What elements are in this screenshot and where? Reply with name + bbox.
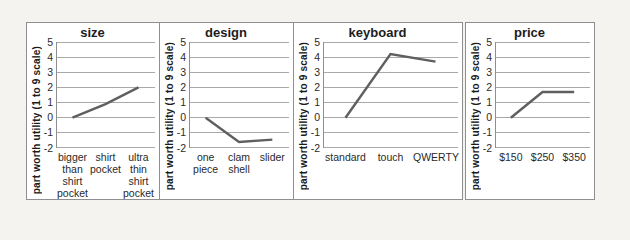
y-tick-label: 0 [180,112,186,123]
x-category-label: touch [368,151,413,163]
x-category-label: shirt pocket [89,151,122,199]
y-tick-labels: 543210-1-2 [309,42,323,148]
y-tick-label: 1 [486,97,492,108]
y-axis-label-box: part worth utility (1 to 9 scale) [469,42,481,190]
x-category-label: $250 [527,151,559,163]
y-tick-label: 2 [180,82,186,93]
chart-title: keyboard [297,25,458,41]
y-tick-label: -2 [44,143,53,154]
plot-area [323,42,458,148]
x-category-labels: one piececlam shellslider [189,151,289,175]
x-category-label: bigger than shirt pocket [56,151,89,199]
chart-panel-keyboard: keyboard part worth utility (1 to 9 scal… [293,22,463,200]
y-tick-label: 3 [180,67,186,78]
y-tick-label: 1 [47,97,53,108]
y-axis-label: part worth utility (1 to 9 scale) [470,42,481,190]
x-category-labels: standardtouchQWERTY [323,151,458,163]
x-category-label: slider [256,151,289,175]
y-tick-label: 5 [180,37,186,48]
plot-area [495,42,590,148]
x-category-labels: bigger than shirt pocketshirt pocketultr… [56,151,155,199]
y-tick-label: 4 [486,52,492,63]
y-axis-label-box: part worth utility (1 to 9 scale) [30,42,42,199]
y-tick-label: 1 [314,97,320,108]
chart-panel-price: price part worth utility (1 to 9 scale) … [465,22,595,200]
y-tick-label: 5 [314,37,320,48]
x-category-label: ultra thin shirt pocket [122,151,155,199]
y-tick-labels: 543210-1-2 [481,42,495,148]
chart-canvas [495,42,590,148]
x-category-label: clam shell [222,151,255,175]
series-line [511,92,574,118]
y-axis-label-box: part worth utility (1 to 9 scale) [163,42,175,190]
series-line [346,54,436,118]
y-axis-label: part worth utility (1 to 9 scale) [164,42,175,190]
part-worth-utility-figure: size part worth utility (1 to 9 scale) 5… [26,22,595,200]
y-tick-label: 3 [314,67,320,78]
y-tick-label: -2 [311,143,320,154]
x-category-label: standard [323,151,368,163]
y-tick-label: 5 [47,37,53,48]
y-tick-labels: 543210-1-2 [42,42,56,148]
x-category-label: $150 [495,151,527,163]
x-category-labels: $150$250$350 [495,151,590,163]
chart-canvas [56,42,155,148]
y-axis-label: part worth utility (1 to 9 scale) [31,46,42,194]
y-tick-label: 5 [486,37,492,48]
y-axis-label: part worth utility (1 to 9 scale) [298,42,309,190]
y-tick-label: 0 [314,112,320,123]
plot-area [56,42,155,148]
y-tick-labels: 543210-1-2 [175,42,189,148]
y-tick-label: 0 [47,112,53,123]
y-tick-label: 3 [486,67,492,78]
chart-canvas [189,42,289,148]
y-tick-label: 2 [47,82,53,93]
y-axis-label-box: part worth utility (1 to 9 scale) [297,42,309,190]
y-tick-label: 4 [314,52,320,63]
chart-canvas [323,42,458,148]
y-tick-label: -1 [177,127,186,138]
y-tick-label: 3 [47,67,53,78]
chart-panel-size: size part worth utility (1 to 9 scale) 5… [26,22,160,200]
y-tick-label: -2 [483,143,492,154]
y-tick-label: 0 [486,112,492,123]
x-category-label: QWERTY [413,151,458,163]
y-tick-label: 2 [486,82,492,93]
chart-panel-design: design part worth utility (1 to 9 scale)… [159,22,294,200]
y-tick-label: 4 [47,52,53,63]
y-tick-label: -1 [44,127,53,138]
y-tick-label: 4 [180,52,186,63]
y-tick-label: -1 [483,127,492,138]
y-tick-label: 1 [180,97,186,108]
y-tick-label: 2 [314,82,320,93]
plot-area [189,42,289,148]
y-tick-label: -1 [311,127,320,138]
y-tick-label: -2 [177,143,186,154]
x-category-label: $350 [558,151,590,163]
series-line [206,118,273,142]
x-category-label: one piece [189,151,222,175]
